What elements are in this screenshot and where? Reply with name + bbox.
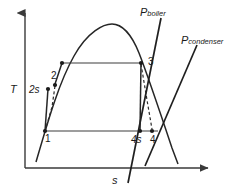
condenser-pressure-subscript: condenser [188, 37, 223, 46]
state-point-3-dot [139, 61, 143, 65]
state-label-2s: 2s [29, 85, 40, 95]
state-label-1: 1 [45, 134, 51, 144]
turbine-isentropic-line-3-4s [140, 63, 141, 131]
boiler-pressure-subscript: boiler [147, 9, 165, 18]
boiler-pressure-label: Pboiler [140, 7, 166, 18]
state-point-4s-dot [138, 129, 142, 133]
state-point-2-dot [53, 83, 57, 87]
temperature-axis-label: T [10, 84, 17, 95]
condenser-pressure-label: Pcondenser [181, 35, 223, 46]
state-label-4: 4 [150, 135, 156, 145]
state-point-4-dot [150, 129, 154, 133]
ts-diagram: T s Pboiler Pcondenser 1 2 2s 3 4s 4 [0, 0, 241, 193]
state-label-4s: 4s [131, 135, 142, 145]
saturation-dome-curve [36, 24, 178, 164]
state-label-2: 2 [51, 71, 57, 81]
entropy-axis-label: s [112, 175, 118, 186]
state-point-2s-dot [46, 87, 50, 91]
state-label-3: 3 [148, 57, 154, 67]
state-point-sat-liquid-dot [60, 61, 64, 65]
ts-diagram-canvas [0, 0, 241, 193]
